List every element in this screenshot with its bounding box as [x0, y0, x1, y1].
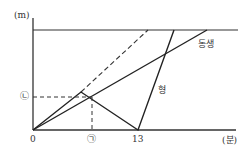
x-mark-13-label: 13: [132, 135, 143, 144]
hyung-line: [33, 30, 174, 130]
origin-label: 0: [30, 135, 36, 144]
x-unit-label: (분): [222, 136, 237, 145]
y-unit-label: (m): [14, 11, 30, 20]
dongsaeng-label: 동생: [198, 40, 214, 49]
x-mark-a-label: ㉠: [87, 135, 96, 144]
distance-time-graph: [0, 0, 252, 155]
dongsaeng-line: [33, 30, 207, 130]
y-mark-b-label: ㉡: [20, 92, 29, 101]
hyung-label: 형: [158, 86, 166, 95]
